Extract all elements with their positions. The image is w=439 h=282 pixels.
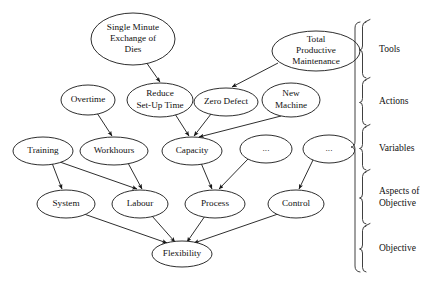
node-zerodef[interactable]: Zero Defect (194, 88, 258, 116)
node-label-smed: Dies (125, 44, 142, 54)
edge-workhours-to-labour (128, 163, 142, 189)
node-newmach[interactable]: NewMachine (262, 83, 320, 117)
edge-overtime-to-workhours (97, 113, 112, 136)
node-dots2[interactable]: ... (303, 135, 355, 163)
node-label-control: Control (282, 198, 311, 208)
node-tpm[interactable]: TotalProductiveMaintenance (272, 31, 360, 71)
node-workhours[interactable]: Workhours (80, 137, 148, 165)
node-reduce[interactable]: ReduceSet-Up Time (127, 83, 193, 117)
node-training[interactable]: Training (13, 137, 73, 165)
node-labour[interactable]: Labour (112, 190, 168, 218)
node-label-newmach: New (282, 88, 300, 98)
node-control[interactable]: Control (268, 190, 324, 218)
edge-control-to-flex (194, 214, 278, 243)
edge-training-to-labour (57, 161, 137, 189)
node-label-flex: Flexibility (163, 248, 202, 258)
node-process[interactable]: Process (185, 190, 245, 218)
node-dots1[interactable]: ... (240, 135, 292, 163)
edge-capacity-to-process (201, 163, 212, 189)
node-label-capacity: Capacity (176, 145, 209, 155)
diagram-canvas: Single MinuteExchange ofDiesTotalProduct… (0, 0, 439, 282)
band-brace-variables-icon (360, 127, 367, 170)
node-label-smed: Exchange of (110, 33, 157, 43)
edge-smed-to-reduce (146, 62, 160, 82)
node-label-tpm: Maintenance (292, 56, 339, 66)
node-label-labour: Labour (127, 198, 154, 208)
node-label-dots2: ... (326, 143, 333, 153)
band-brace-actions-icon (360, 80, 367, 125)
band-tick-tools-top (365, 20, 370, 23)
node-label-workhours: Workhours (94, 145, 135, 155)
node-label-process: Process (201, 198, 229, 208)
band-label-objective: Objective (379, 243, 416, 253)
node-label-newmach: Machine (275, 100, 307, 110)
node-overtime[interactable]: Overtime (61, 85, 115, 115)
edge-tpm-to-zerodef (232, 63, 278, 87)
band-label-aspects: Objective (379, 198, 416, 208)
edge-labour-to-flex (152, 216, 175, 242)
node-label-training: Training (27, 145, 59, 155)
nodes-layer: Single MinuteExchange ofDiesTotalProduct… (13, 13, 360, 267)
node-label-smed: Single Minute (107, 22, 159, 32)
edge-dots2-to-control (299, 160, 313, 189)
node-flex[interactable]: Flexibility (152, 241, 212, 267)
node-smed[interactable]: Single MinuteExchange ofDies (91, 13, 175, 65)
node-capacity[interactable]: Capacity (162, 137, 222, 165)
band-label-tools: Tools (379, 44, 400, 54)
band-label-aspects: Aspects of (379, 186, 420, 196)
node-label-dots1: ... (263, 143, 270, 153)
band-brace-objective-icon (360, 226, 367, 272)
node-label-reduce: Reduce (146, 88, 174, 98)
band-label-actions: Actions (379, 96, 409, 106)
node-label-system: System (52, 198, 79, 208)
band-brace-tools-icon (360, 22, 367, 78)
band-brace-aspects-icon (360, 172, 367, 224)
band-labels-layer: ToolsActionsVariablesAspects ofObjective… (379, 44, 420, 253)
node-label-zerodef: Zero Defect (204, 96, 249, 106)
edge-reduce-to-capacity (175, 114, 189, 136)
edge-dots1-to-process (219, 159, 248, 189)
band-label-variables: Variables (379, 143, 415, 153)
edge-zerodef-to-capacity (194, 114, 211, 136)
node-label-overtime: Overtime (71, 94, 106, 104)
node-label-tpm: Productive (296, 45, 336, 55)
diagram-svg: Single MinuteExchange ofDiesTotalProduct… (0, 0, 439, 282)
node-label-tpm: Total (307, 34, 326, 44)
node-label-reduce: Set-Up Time (136, 100, 183, 110)
edge-process-to-flex (187, 216, 205, 242)
node-system[interactable]: System (37, 190, 95, 218)
edge-newmach-to-capacity (199, 116, 281, 137)
edge-training-to-system (52, 163, 62, 189)
